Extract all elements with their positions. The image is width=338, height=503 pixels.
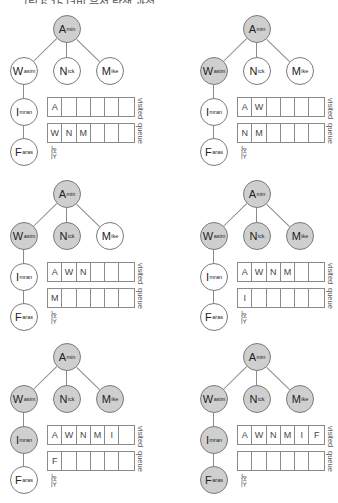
node-name: M bbox=[102, 230, 111, 242]
visited-array-cell bbox=[77, 98, 91, 116]
graph-node-n: Nick bbox=[53, 222, 81, 250]
node-subscript: ike bbox=[301, 68, 308, 74]
visited-array-cell bbox=[91, 98, 105, 116]
node-subscript: asim bbox=[214, 68, 226, 74]
visited-array-cell: A bbox=[238, 426, 252, 444]
queue-array-cell bbox=[91, 124, 105, 142]
node-name: A bbox=[249, 188, 256, 200]
queue-array: I bbox=[237, 288, 325, 308]
graph-node-i: Imran bbox=[200, 426, 228, 454]
bfs-step-panel: AminWasimNickMikeImranFarasAWNMIFvisited… bbox=[0, 328, 150, 493]
visited-label: visited bbox=[136, 426, 145, 447]
graph-node-f: Faras bbox=[10, 466, 38, 494]
visited-array-cell bbox=[105, 263, 119, 281]
node-subscript: asim bbox=[214, 396, 226, 402]
node-subscript: min bbox=[256, 26, 265, 32]
graph-node-w: Wasim bbox=[200, 222, 228, 250]
queue-array-cell bbox=[62, 452, 76, 470]
bfs-step-panel: AminWasimNickMikeImranFarasAWNMvisitedqu… bbox=[190, 0, 338, 165]
queue-array-cell bbox=[119, 289, 133, 307]
node-subscript: ick bbox=[68, 233, 75, 239]
graph-node-m: Mike bbox=[286, 57, 314, 85]
queue-start-label: 시작 bbox=[240, 311, 250, 325]
node-name: N bbox=[59, 230, 67, 242]
node-subscript: mran bbox=[20, 109, 33, 115]
node-name: F bbox=[15, 146, 22, 158]
graph-node-m: Mike bbox=[96, 385, 124, 413]
graph-node-f: Faras bbox=[200, 466, 228, 494]
graph-node-f: Faras bbox=[10, 138, 38, 166]
graph-node-m: Mike bbox=[96, 222, 124, 250]
graph-node-f: Faras bbox=[200, 138, 228, 166]
node-subscript: ike bbox=[301, 233, 308, 239]
graph-node-i: Imran bbox=[200, 263, 228, 291]
visited-array-cell bbox=[119, 263, 133, 281]
node-subscript: aras bbox=[212, 477, 223, 483]
tree-edge bbox=[266, 204, 290, 227]
node-subscript: asim bbox=[24, 396, 36, 402]
node-subscript: asim bbox=[24, 233, 36, 239]
node-subscript: ick bbox=[68, 396, 75, 402]
queue-array-cell bbox=[91, 289, 105, 307]
queue-array-cell bbox=[295, 289, 309, 307]
visited-array-cell bbox=[309, 98, 323, 116]
queue-array-cell bbox=[281, 289, 295, 307]
queue-array-cell bbox=[309, 124, 323, 142]
node-subscript: aras bbox=[22, 314, 33, 320]
queue-array-cell bbox=[267, 124, 281, 142]
graph-node-a: Amin bbox=[243, 180, 271, 208]
visited-array-cell: M bbox=[91, 426, 105, 444]
node-subscript: ick bbox=[258, 233, 265, 239]
graph-node-w: Wasim bbox=[10, 222, 38, 250]
tree-edge bbox=[76, 367, 100, 390]
visited-array-cell: W bbox=[252, 263, 266, 281]
tree-edge bbox=[23, 85, 24, 98]
queue-array: WNM bbox=[47, 123, 135, 143]
node-name: W bbox=[203, 65, 213, 77]
node-subscript: min bbox=[256, 354, 265, 360]
visited-array: A bbox=[47, 97, 135, 117]
queue-start-label: 시작 bbox=[50, 474, 60, 488]
queue-array-cell bbox=[295, 124, 309, 142]
node-subscript: ick bbox=[258, 396, 265, 402]
node-subscript: aras bbox=[22, 477, 33, 483]
queue-array-cell bbox=[105, 124, 119, 142]
node-subscript: min bbox=[66, 26, 75, 32]
tree-edge bbox=[213, 454, 214, 466]
node-subscript: ick bbox=[258, 68, 265, 74]
node-subscript: min bbox=[256, 191, 265, 197]
graph-node-a: Amin bbox=[243, 15, 271, 43]
tree-edge bbox=[223, 203, 247, 226]
graph-node-f: Faras bbox=[10, 303, 38, 331]
node-name: A bbox=[249, 351, 256, 363]
visited-array-cell: N bbox=[267, 263, 281, 281]
tree-edge bbox=[223, 366, 247, 389]
tree-edge bbox=[23, 291, 24, 303]
queue-start-label: 시작 bbox=[240, 474, 250, 488]
node-name: F bbox=[205, 146, 212, 158]
queue-array-cell bbox=[77, 289, 91, 307]
node-name: N bbox=[59, 393, 67, 405]
visited-array: AWNM bbox=[237, 262, 325, 282]
queue-array-cell bbox=[295, 452, 309, 470]
graph-node-w: Wasim bbox=[10, 385, 38, 413]
node-name: A bbox=[59, 351, 66, 363]
graph-node-n: Nick bbox=[243, 222, 271, 250]
queue-array-cell bbox=[252, 452, 266, 470]
queue-array-cell: N bbox=[62, 124, 76, 142]
node-name: A bbox=[59, 23, 66, 35]
visited-label: visited bbox=[326, 263, 335, 284]
queue-array-cell bbox=[238, 452, 252, 470]
node-name: F bbox=[205, 311, 212, 323]
tree-edge bbox=[23, 454, 24, 466]
node-name: N bbox=[249, 230, 257, 242]
graph-node-m: Mike bbox=[96, 57, 124, 85]
queue-label: queue bbox=[326, 288, 335, 309]
tree-edge bbox=[33, 366, 57, 389]
visited-array-cell: M bbox=[281, 263, 295, 281]
node-subscript: mran bbox=[210, 274, 223, 280]
queue-array-cell: M bbox=[252, 124, 266, 142]
queue-array-cell: M bbox=[48, 289, 62, 307]
visited-array-cell bbox=[105, 98, 119, 116]
queue-array-cell: W bbox=[48, 124, 62, 142]
